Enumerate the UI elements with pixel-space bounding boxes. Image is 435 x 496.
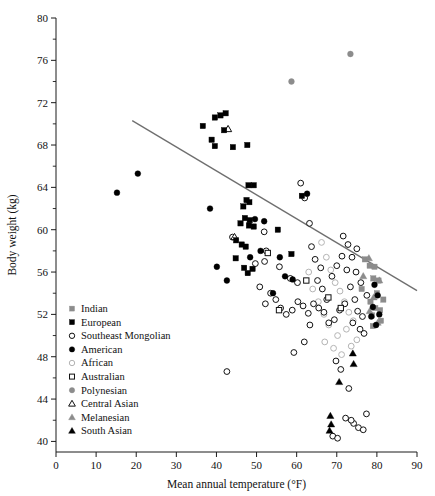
legend-marker-icon: [69, 388, 74, 393]
legend-label: Central Asian: [81, 398, 139, 409]
data-point: [360, 427, 366, 433]
y-tick-label: 68: [37, 139, 49, 151]
x-tick-label: 30: [171, 459, 183, 471]
data-point: [371, 276, 376, 281]
x-tick-label: 90: [412, 459, 424, 471]
data-point: [306, 269, 312, 275]
data-point: [360, 273, 367, 279]
data-point: [233, 256, 238, 261]
data-point: [298, 180, 304, 186]
data-point: [310, 286, 316, 292]
y-tick-label: 80: [37, 12, 49, 24]
legend-label: Melanesian: [81, 412, 130, 423]
data-point: [301, 339, 307, 345]
data-point: [360, 314, 366, 320]
data-point: [242, 215, 247, 220]
data-point: [135, 171, 141, 177]
legend-item-african[interactable]: African: [69, 357, 114, 368]
legend-label: Polynesian: [81, 385, 128, 396]
data-point: [224, 369, 230, 375]
data-point: [252, 216, 258, 222]
legend-label: European: [81, 317, 122, 328]
data-point: [212, 143, 217, 148]
data-point: [381, 297, 386, 302]
data-point: [339, 352, 345, 358]
data-point: [251, 183, 256, 188]
data-point: [243, 244, 248, 249]
data-point: [350, 360, 357, 366]
data-point: [372, 282, 378, 288]
data-point: [258, 248, 264, 254]
data-point: [221, 128, 226, 133]
data-point: [246, 183, 251, 188]
legend-marker-icon: [69, 400, 76, 406]
data-point: [291, 350, 297, 356]
data-point: [354, 337, 360, 343]
legend-item-south-asian[interactable]: South Asian: [69, 425, 133, 436]
legend-item-polynesian[interactable]: Polynesian: [69, 385, 128, 396]
data-point: [289, 79, 295, 85]
legend-marker-icon: [69, 347, 74, 352]
legend-item-australian[interactable]: Australian: [70, 371, 126, 382]
data-point: [316, 305, 322, 311]
legend-item-european[interactable]: European: [70, 317, 122, 328]
x-tick-label: 70: [331, 459, 343, 471]
data-point: [305, 310, 311, 316]
x-tick-label: 40: [211, 459, 223, 471]
data-point: [367, 263, 372, 268]
x-tick-label: 20: [131, 459, 143, 471]
data-point: [251, 224, 256, 229]
data-point: [307, 220, 313, 226]
data-point: [348, 343, 354, 349]
legend-label: Australian: [81, 371, 125, 382]
data-point: [319, 286, 325, 292]
data-point: [311, 301, 317, 307]
data-point: [300, 303, 306, 309]
data-point: [329, 273, 335, 279]
data-point: [370, 304, 376, 310]
legend-item-central-asian[interactable]: Central Asian: [69, 398, 140, 409]
series-european: [200, 111, 304, 276]
x-tick-label: 80: [371, 459, 383, 471]
data-point: [214, 264, 220, 270]
legend-label: South Asian: [81, 425, 133, 436]
data-point: [241, 204, 246, 209]
legend-item-american[interactable]: American: [69, 344, 123, 355]
data-point: [319, 240, 325, 246]
data-point: [247, 218, 252, 223]
data-point: [245, 270, 250, 275]
legend-item-melanesian[interactable]: Melanesian: [69, 412, 131, 423]
data-point: [261, 218, 267, 224]
data-point: [241, 265, 246, 270]
data-point: [200, 123, 205, 128]
data-point: [246, 223, 251, 228]
data-point: [247, 254, 253, 260]
data-point: [321, 309, 327, 315]
legend-marker-icon: [70, 374, 75, 379]
data-point: [277, 264, 283, 270]
data-point: [333, 358, 339, 364]
legend-marker-icon: [69, 333, 74, 338]
data-point: [223, 111, 228, 116]
data-point: [218, 113, 223, 118]
y-tick-label: 60: [37, 224, 49, 236]
data-point: [273, 297, 279, 303]
data-point: [290, 277, 296, 283]
data-point: [348, 417, 354, 423]
data-point: [358, 280, 364, 286]
data-point: [261, 229, 267, 235]
data-point: [337, 288, 343, 294]
scatter-plot-figure: 4044485256606468727680010203040506070809…: [0, 0, 435, 496]
x-tick-label: 60: [291, 459, 303, 471]
data-point: [355, 308, 361, 314]
data-point: [348, 284, 354, 290]
data-point: [340, 233, 346, 239]
data-point: [328, 267, 334, 273]
legend-item-indian[interactable]: Indian: [70, 303, 109, 314]
data-point: [224, 278, 230, 284]
data-point: [309, 244, 315, 250]
data-point: [372, 264, 377, 269]
data-point: [335, 333, 341, 339]
data-point: [276, 307, 281, 312]
legend-item-southeast-mongolian[interactable]: Southeast Mongolian: [69, 330, 171, 341]
